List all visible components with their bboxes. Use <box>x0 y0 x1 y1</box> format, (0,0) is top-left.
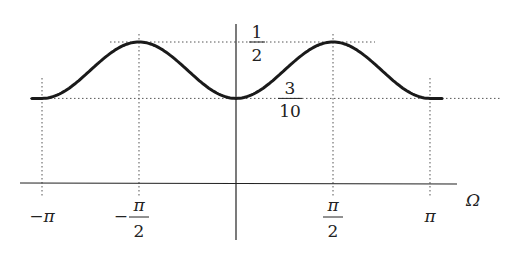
reference-lines <box>30 34 500 196</box>
x-axis-label: Ω <box>465 190 480 210</box>
y-tick-numerator: 3 <box>285 78 296 98</box>
chart: −π−π2π2π 12310 Ω <box>0 0 505 258</box>
x-tick-numerator: π <box>132 195 145 215</box>
x-tick-label: π <box>423 206 436 226</box>
x-axis <box>20 183 457 184</box>
y-tick-denominator: 10 <box>279 101 301 121</box>
x-tick-numerator: π <box>326 195 339 215</box>
y-tick-label: 12 <box>249 22 265 65</box>
x-tick-minus: − <box>114 206 128 226</box>
x-tick-denominator: 2 <box>134 221 145 241</box>
series-curve <box>32 42 442 98</box>
y-tick-denominator: 2 <box>252 45 263 65</box>
y-tick-label: 310 <box>278 78 302 121</box>
y-tick-numerator: 1 <box>252 22 263 42</box>
y-tick-labels: 12310 <box>249 22 302 121</box>
x-tick-label: −π <box>29 206 55 226</box>
x-tick-label: π2 <box>323 195 343 241</box>
x-tick-denominator: 2 <box>328 221 339 241</box>
x-tick-labels: −π−π2π2π <box>29 195 436 241</box>
x-tick-text: −π <box>29 206 55 226</box>
x-tick-text: π <box>423 206 436 226</box>
x-tick-label: −π2 <box>114 195 149 241</box>
